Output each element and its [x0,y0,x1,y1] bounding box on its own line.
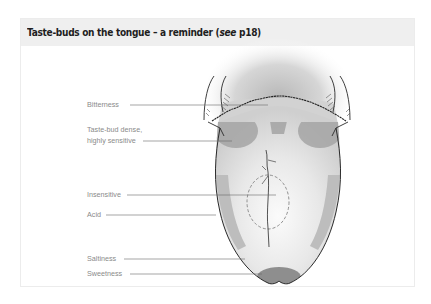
label-dense-line2: highly sensitive [87,136,136,145]
label-dense-line1: Taste-bud dense, [87,125,142,134]
label-sweetness: Sweetness [87,269,122,278]
label-acid: Acid [87,210,101,219]
tongue-diagram [0,0,431,304]
label-insensitive: Insensitive [87,190,121,199]
sweetness-zone [257,267,301,287]
label-bitterness: Bitterness [87,100,119,109]
label-saltiness: Saltiness [87,254,116,263]
